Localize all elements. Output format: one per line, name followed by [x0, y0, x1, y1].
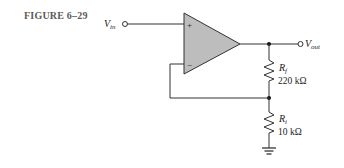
- circuit-diagram: + − Vin Vout Rf 220 kΩ Ri 10 kΩ: [0, 0, 344, 168]
- rf-label: Rf: [278, 62, 288, 75]
- opamp-icon: [184, 13, 240, 74]
- vin-terminal-icon: [123, 22, 128, 27]
- ri-label: Ri: [278, 113, 287, 126]
- plus-sign: +: [187, 20, 192, 30]
- rf-value: 220 kΩ: [278, 76, 306, 86]
- rf-resistor-icon: [264, 60, 274, 81]
- vout-label: Vout: [305, 38, 321, 51]
- minus-sign: −: [187, 60, 192, 70]
- vin-label: Vin: [104, 18, 116, 31]
- ri-value: 10 kΩ: [278, 127, 302, 137]
- ri-resistor-icon: [264, 112, 274, 133]
- ground-icon: [262, 148, 276, 154]
- vout-terminal-icon: [298, 42, 303, 47]
